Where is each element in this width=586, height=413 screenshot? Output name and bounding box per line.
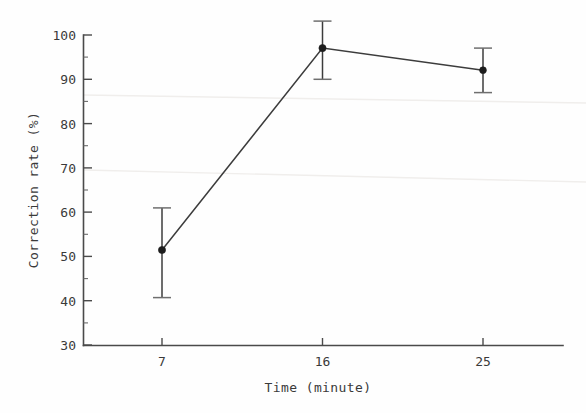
y-tick-label: 90 [60,72,76,87]
x-tick-label: 16 [315,354,331,369]
y-axis-title: Correction rate (%) [26,112,41,268]
chart-figure: 100 90 80 70 60 50 40 30 7 16 25 Time (m… [0,0,586,413]
line-chart-plot: 100 90 80 70 60 50 40 30 7 16 25 Time (m… [0,0,586,413]
x-tick-label: 7 [158,354,166,369]
y-tick-label: 60 [60,205,76,220]
scan-ghost-line-lower [84,170,586,182]
scan-artifacts [84,95,586,182]
data-point-marker [158,246,165,253]
error-bar-group [153,21,492,298]
data-point-marker [480,67,487,74]
y-tick-label: 40 [60,294,76,309]
x-axis-ticks [162,338,483,346]
data-point-marker [319,45,326,52]
y-axis-tick-labels: 100 90 80 70 60 50 40 30 [53,28,76,353]
y-tick-label: 100 [53,28,76,43]
x-axis-tick-labels: 7 16 25 [158,354,491,369]
x-axis-title: Time (minute) [265,380,372,395]
y-tick-label: 80 [60,117,76,132]
scan-ghost-line-upper [84,95,586,103]
y-tick-label: 70 [60,161,76,176]
y-tick-label: 50 [60,249,76,264]
x-tick-label: 25 [475,354,491,369]
y-tick-label: 30 [60,338,76,353]
